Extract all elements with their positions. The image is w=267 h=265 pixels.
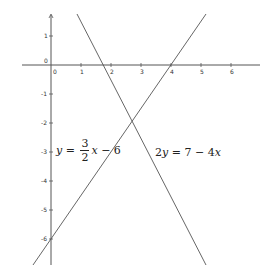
y-tick-label: 1 — [44, 32, 48, 39]
x-tick-label: 2 — [110, 68, 114, 75]
y-tick-label: -4 — [41, 177, 47, 184]
eq1-fraction-denominator: 2 — [81, 151, 88, 163]
equation-label-line2: 2y = 7 − 4x — [155, 146, 221, 159]
y-tick-label: -3 — [41, 148, 47, 155]
eq2-coef: 2 — [155, 146, 162, 159]
eq1-fraction-numerator: 3 — [80, 138, 89, 151]
x-tick-label: 5 — [200, 68, 204, 75]
eq1-lhs: y — [56, 144, 62, 157]
eq1-rest: − 6 — [101, 144, 121, 157]
eq2-var: x — [215, 146, 221, 159]
eq2-lhs: y — [162, 146, 168, 159]
y-tick-label: -1 — [41, 90, 47, 97]
x-tick-label: 6 — [230, 68, 234, 75]
x-tick-label: 0 — [53, 68, 57, 75]
eq1-var: x — [91, 144, 97, 157]
y-tick-label: -5 — [41, 206, 47, 213]
eq2-rhs: = 7 − 4 — [172, 146, 215, 159]
y-tick-label: 0 — [44, 57, 48, 64]
x-tick-labels: 0 1 2 3 4 5 6 — [53, 68, 234, 75]
plot-area: 0 1 2 3 4 5 6 1 0 -1 -2 -3 -4 -5 -6 — [0, 0, 267, 265]
eq1-fraction: 3 2 — [80, 138, 89, 163]
y-tick-label: -6 — [41, 235, 47, 242]
x-tick-label: 4 — [170, 68, 174, 75]
eq1-equals: = — [66, 144, 75, 157]
y-tick-label: -2 — [41, 119, 47, 126]
y-tick-labels: 1 0 -1 -2 -3 -4 -5 -6 — [41, 32, 48, 242]
x-tick-label: 3 — [140, 68, 144, 75]
equation-label-line1: y = 3 2 x − 6 — [56, 138, 121, 163]
x-tick-label: 1 — [80, 68, 84, 75]
